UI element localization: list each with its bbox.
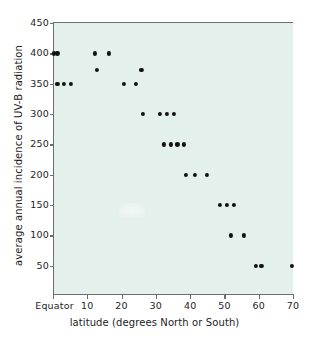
data-point bbox=[259, 264, 263, 268]
data-point bbox=[192, 173, 196, 177]
y-axis-tick-label: 400 bbox=[0, 47, 49, 58]
x-axis-tick bbox=[224, 294, 225, 299]
x-axis-tick bbox=[190, 294, 191, 299]
data-point bbox=[107, 51, 111, 55]
x-axis-tick bbox=[87, 294, 88, 299]
data-point bbox=[232, 203, 236, 207]
data-point bbox=[254, 264, 258, 268]
x-axis-tick-label: Equator bbox=[35, 300, 74, 311]
x-axis-tick bbox=[156, 294, 157, 299]
y-axis-tick bbox=[50, 23, 55, 24]
data-point bbox=[165, 112, 169, 116]
x-axis-tick-label: 30 bbox=[150, 300, 163, 311]
x-axis-tick bbox=[259, 294, 260, 299]
y-axis-tick bbox=[50, 84, 55, 85]
data-point bbox=[93, 51, 97, 55]
y-axis-tick-label: 50 bbox=[0, 259, 49, 270]
data-point bbox=[168, 142, 172, 146]
data-point bbox=[69, 82, 73, 86]
y-axis-tick-label: 200 bbox=[0, 168, 49, 179]
data-point bbox=[290, 264, 294, 268]
data-point bbox=[55, 82, 59, 86]
data-point bbox=[182, 142, 186, 146]
y-axis-tick-label: 150 bbox=[0, 199, 49, 210]
y-axis-tick bbox=[50, 144, 55, 145]
y-axis-tick-label: 450 bbox=[0, 17, 49, 28]
x-axis-tick bbox=[293, 294, 294, 299]
y-axis-tick-label: 100 bbox=[0, 229, 49, 240]
data-point bbox=[122, 82, 126, 86]
x-axis-tick bbox=[53, 294, 54, 299]
y-axis-tick bbox=[50, 266, 55, 267]
paper-blemish bbox=[119, 203, 145, 218]
x-axis-tick-label: 50 bbox=[218, 300, 231, 311]
y-axis-tick-label: 300 bbox=[0, 108, 49, 119]
data-point bbox=[228, 233, 232, 237]
y-axis-tick bbox=[50, 114, 55, 115]
x-axis-tick bbox=[122, 294, 123, 299]
x-axis-tick-label: 10 bbox=[81, 300, 94, 311]
x-axis-tick-label: 60 bbox=[252, 300, 265, 311]
x-axis-tick-label: 70 bbox=[287, 300, 300, 311]
data-point bbox=[218, 203, 222, 207]
data-point bbox=[175, 142, 179, 146]
data-point bbox=[242, 233, 246, 237]
y-axis-tick bbox=[50, 205, 55, 206]
data-point bbox=[158, 112, 162, 116]
data-point bbox=[95, 68, 99, 72]
y-axis-title: average annual incidence of UV-B radiati… bbox=[13, 31, 24, 281]
x-axis-title: latitude (degrees North or South) bbox=[0, 317, 309, 328]
y-axis-tick bbox=[50, 235, 55, 236]
data-point bbox=[55, 51, 59, 55]
data-point bbox=[134, 82, 138, 86]
y-axis-tick bbox=[50, 175, 55, 176]
y-axis-tick-label: 350 bbox=[0, 77, 49, 88]
data-point bbox=[162, 142, 166, 146]
data-point bbox=[172, 112, 176, 116]
data-point bbox=[204, 173, 208, 177]
data-point bbox=[184, 173, 188, 177]
x-axis-tick-label: 40 bbox=[184, 300, 197, 311]
y-axis-tick-label: 250 bbox=[0, 138, 49, 149]
data-point bbox=[139, 68, 143, 72]
plot-area bbox=[53, 22, 293, 295]
x-axis-tick-label: 20 bbox=[115, 300, 128, 311]
uvb-latitude-scatter-figure: latitude (degrees North or South) averag… bbox=[0, 0, 309, 341]
data-point bbox=[225, 203, 229, 207]
data-point bbox=[62, 82, 66, 86]
x-axis-line bbox=[53, 294, 293, 295]
data-point bbox=[141, 112, 145, 116]
